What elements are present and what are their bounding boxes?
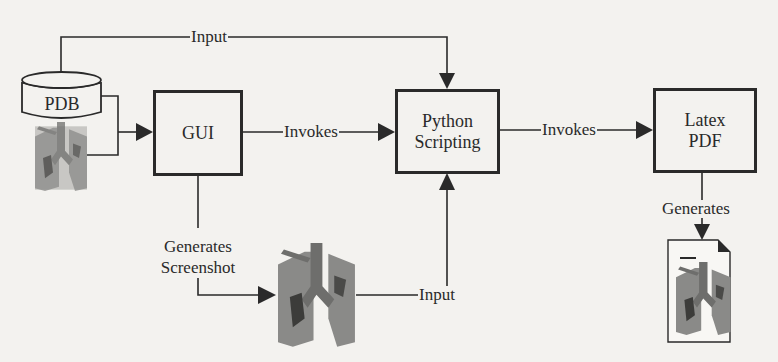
- latex-label-line1: Latex: [685, 110, 726, 131]
- arrowhead-right-icon: [136, 123, 153, 141]
- edge-pdb-to-python: [61, 37, 447, 80]
- generates-line1: Generates: [150, 236, 246, 257]
- edge-label-generates-screenshot: Generates Screenshot: [150, 236, 246, 278]
- edge-label-invokes-1: Invokes: [283, 123, 339, 141]
- pdf-document-icon: [668, 240, 731, 342]
- arrowhead-down-icon: [439, 73, 455, 89]
- gui-label: GUI: [182, 123, 214, 144]
- arrowhead-right-icon: [378, 123, 395, 141]
- arrowhead-right-icon: [636, 121, 653, 139]
- workflow-diagram: PDB Input GUI Invokes Python Scripting I…: [0, 0, 778, 362]
- python-scripting-box: Python Scripting: [395, 89, 500, 174]
- gui-box: GUI: [153, 90, 243, 176]
- arrowhead-down-icon: [694, 224, 710, 240]
- edge-label-input-top: Input: [190, 28, 228, 46]
- arrowhead-right-icon: [258, 286, 276, 304]
- screenshot-line2: Screenshot: [150, 257, 246, 278]
- edge-label-input-bottom: Input: [418, 286, 456, 304]
- screenshot-lung-image: [278, 243, 355, 347]
- edge-label-invokes-2: Invokes: [541, 121, 597, 139]
- python-label-line1: Python: [415, 111, 481, 132]
- edge-screenshot-to-python: [356, 183, 447, 295]
- latex-pdf-box: Latex PDF: [653, 88, 757, 173]
- diagram-connectors: [0, 0, 778, 362]
- latex-label-line2: PDF: [685, 131, 726, 152]
- arrowhead-up-icon: [439, 173, 455, 190]
- python-label-line2: Scripting: [415, 132, 481, 153]
- edge-gui-to-screenshot: [198, 275, 262, 295]
- lung-render-image: [35, 122, 87, 191]
- pdb-label: PDB: [40, 95, 84, 113]
- edge-label-generates: Generates: [662, 200, 730, 218]
